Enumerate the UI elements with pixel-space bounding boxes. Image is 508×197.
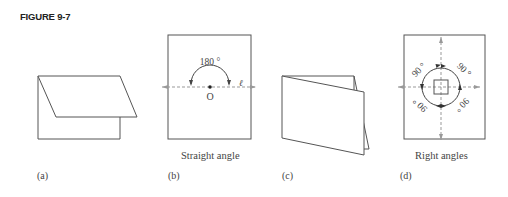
panel-label-a: (a) bbox=[37, 170, 48, 181]
line-l-label: ℓ bbox=[239, 78, 243, 88]
caption-right-angles: Right angles bbox=[415, 150, 468, 161]
right-angle-label-top-right: 90 ° bbox=[455, 61, 473, 79]
panel-d-right-angles bbox=[398, 35, 485, 140]
caption-straight-angle: Straight angle bbox=[181, 150, 240, 161]
panel-label-c: (c) bbox=[282, 170, 293, 181]
straight-angle-label: 180 ° bbox=[200, 57, 221, 67]
figure-diagram: 180 ° O ℓ 90 ° 90 ° 90 ° 90 ° bbox=[0, 0, 508, 197]
panel-label-b: (b) bbox=[168, 170, 180, 181]
panel-c-folded-card bbox=[282, 76, 369, 155]
panel-label-d: (d) bbox=[400, 170, 412, 181]
panel-a-folded-paper bbox=[38, 76, 137, 139]
point-o-label: O bbox=[206, 91, 213, 102]
